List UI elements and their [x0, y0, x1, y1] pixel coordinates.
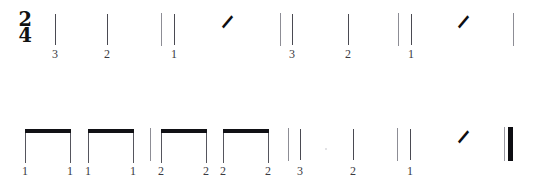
- barline: [288, 128, 289, 161]
- eighth-note-stem: [268, 133, 269, 163]
- beat-count: 1: [167, 48, 181, 60]
- eighth-note-stem: [88, 133, 89, 163]
- rhythm-notation-sheet: 24321⸍321⸍11112222321⸍: [0, 0, 537, 187]
- quarter-note-stem: [107, 14, 108, 45]
- beat-count: 3: [293, 165, 307, 177]
- beat-count: 2: [154, 165, 168, 177]
- beat-count: 1: [63, 165, 77, 177]
- final-barline-thin: [504, 127, 505, 161]
- beat-count: 2: [346, 165, 360, 177]
- eighth-note-stem: [223, 133, 224, 163]
- beam: [25, 129, 71, 133]
- barline: [397, 128, 398, 161]
- beat-count: 2: [341, 48, 355, 60]
- quarter-note-stem: [292, 14, 293, 45]
- scan-speck: [325, 148, 327, 150]
- beat-count: 1: [18, 165, 32, 177]
- barline: [150, 128, 151, 161]
- quarter-note-stem: [174, 14, 175, 45]
- quarter-rest: ⸍: [457, 127, 470, 158]
- quarter-note-stem: [353, 129, 354, 160]
- beam: [88, 129, 134, 133]
- beat-count: 3: [285, 48, 299, 60]
- quarter-note-stem: [410, 129, 411, 160]
- eighth-note-stem: [133, 133, 134, 163]
- time-signature: 24: [19, 10, 32, 43]
- beat-count: 1: [404, 48, 418, 60]
- barline: [513, 13, 514, 46]
- eighth-note-stem: [70, 133, 71, 163]
- barline: [161, 13, 162, 46]
- eighth-note-stem: [25, 133, 26, 163]
- beat-count: 3: [48, 48, 62, 60]
- eighth-note-stem: [161, 133, 162, 163]
- quarter-rest: ⸍: [457, 12, 470, 43]
- eighth-note-stem: [206, 133, 207, 163]
- time-signature-denominator: 4: [19, 26, 32, 43]
- quarter-rest: ⸍: [221, 12, 234, 43]
- beat-count: 2: [100, 48, 114, 60]
- barline: [280, 13, 281, 46]
- final-barline-thick: [508, 127, 513, 161]
- beat-count: 2: [199, 165, 213, 177]
- barline: [398, 13, 399, 46]
- beat-count: 2: [216, 165, 230, 177]
- beat-count: 1: [403, 165, 417, 177]
- beat-count: 2: [261, 165, 275, 177]
- beat-count: 1: [126, 165, 140, 177]
- quarter-note-stem: [55, 14, 56, 45]
- quarter-note-stem: [348, 14, 349, 45]
- quarter-note-stem: [411, 14, 412, 45]
- beat-count: 1: [81, 165, 95, 177]
- beam: [223, 129, 269, 133]
- beam: [161, 129, 207, 133]
- quarter-note-stem: [300, 129, 301, 160]
